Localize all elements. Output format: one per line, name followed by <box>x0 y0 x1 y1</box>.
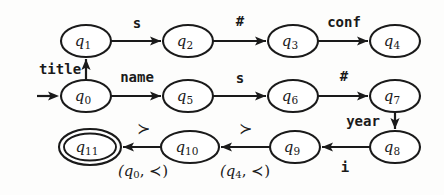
state-node-q6[interactable]: q6 <box>268 80 318 112</box>
state-node-q9[interactable]: q9 <box>270 131 320 163</box>
edge-label-q0-q1: title <box>39 61 81 77</box>
edge-label-q5-q6: s <box>236 70 244 86</box>
edge-label-q0-q5: name <box>120 69 154 85</box>
edge-label-q3-q4: conf <box>327 14 361 30</box>
edge-sublabel-q9-q10: (q4, ≺) <box>220 162 270 180</box>
state-node-q11[interactable]: q11 <box>59 129 121 165</box>
edge-label-q8-q9: i <box>341 159 349 175</box>
state-node-q10[interactable]: q10 <box>161 131 219 163</box>
edge-label-q9-q10: ≻ <box>239 119 252 138</box>
edge-label-q6-q7: # <box>340 68 349 84</box>
edge-label-q10-q11: ≻ <box>137 119 150 138</box>
state-node-q4[interactable]: q4 <box>370 25 420 57</box>
automaton-figure: q0q1q2q3q4q5q6q7q8q9q10q11 titles#confna… <box>0 0 444 195</box>
state-node-q1[interactable]: q1 <box>61 25 111 57</box>
state-node-q0[interactable]: q0 <box>61 80 111 112</box>
state-node-q8[interactable]: q8 <box>370 131 420 163</box>
state-node-q5[interactable]: q5 <box>163 80 213 112</box>
automaton-canvas: q0q1q2q3q4q5q6q7q8q9q10q11 titles#confna… <box>0 0 444 195</box>
state-node-q7[interactable]: q7 <box>370 80 420 112</box>
edge-sublabel-q10-q11: (q0, ≺) <box>118 162 168 180</box>
edge-label-q7-q8: year <box>346 113 380 129</box>
edge-label-q2-q3: # <box>236 13 245 29</box>
state-node-q2[interactable]: q2 <box>163 25 213 57</box>
state-node-q3[interactable]: q3 <box>268 25 318 57</box>
edge-label-q1-q2: s <box>133 15 141 31</box>
